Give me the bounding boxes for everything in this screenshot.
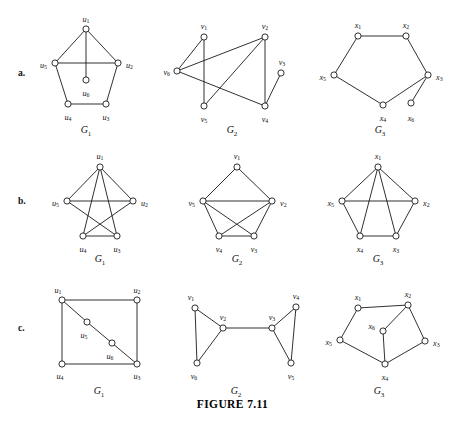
- vertex-label-x2: x2: [422, 199, 430, 208]
- edge-v1-v6: [195, 308, 197, 363]
- graph-name-a-G2: G2: [227, 124, 238, 138]
- edge-u2-u3: [106, 63, 118, 104]
- vertex-x1: [355, 305, 361, 311]
- graph-name-b-G2: G2: [232, 253, 243, 267]
- vertex-label-u1: u1: [55, 286, 62, 295]
- vertex-label-x2: x2: [402, 21, 410, 30]
- edge-v2-v3: [254, 201, 272, 236]
- vertex-v1: [201, 34, 207, 40]
- vertex-u6: [83, 77, 89, 83]
- vertex-label-u6: u6: [83, 89, 90, 98]
- graph-name-a-G3: G3: [375, 124, 386, 138]
- vertex-x4: [380, 102, 386, 108]
- edge-v2-v5: [204, 37, 265, 106]
- vertex-label-u4: u4: [80, 245, 87, 254]
- vertex-x4: [382, 361, 388, 367]
- vertex-label-x1: x1: [354, 21, 362, 30]
- vertex-label-u2: u2: [141, 199, 148, 208]
- graph-name-c-G1: G1: [94, 385, 105, 399]
- vertex-label-v4: v4: [293, 292, 300, 301]
- edge-u6-u3: [112, 343, 137, 364]
- vertex-label-v1: v1: [201, 22, 208, 31]
- graph-b-G1: u1u2u3u4u5G1: [52, 152, 148, 267]
- vertex-v3: [278, 70, 284, 76]
- vertex-x1: [355, 33, 361, 39]
- graph-a-G3: x1x2x3x4x5x6G3: [318, 21, 442, 138]
- row-label-a: a.: [18, 68, 25, 78]
- edge-x4-x5: [334, 75, 383, 105]
- vertex-x3: [425, 72, 431, 78]
- vertex-v5: [288, 360, 294, 366]
- edge-x4-x5: [340, 340, 385, 364]
- vertex-x1: [375, 164, 381, 170]
- vertex-label-u2: u2: [134, 286, 141, 295]
- vertex-label-v6: v6: [163, 68, 170, 77]
- vertex-u2: [134, 297, 140, 303]
- edge-x1-x4: [360, 167, 378, 236]
- vertex-label-v3: v3: [279, 58, 286, 67]
- edges-b-G3: [342, 167, 415, 236]
- edges-c-G2: [195, 307, 296, 363]
- figure-caption: FIGURE 7.11: [0, 398, 465, 410]
- vertex-x5: [331, 72, 337, 78]
- vertex-x2: [412, 198, 418, 204]
- vertex-u2: [115, 60, 121, 66]
- edges-a-G3: [334, 36, 428, 105]
- graph-name-a-G1: G1: [81, 124, 92, 138]
- vertex-label-u4: u4: [65, 113, 72, 122]
- edge-u1-u5: [67, 167, 100, 201]
- vertex-label-v5: v5: [188, 199, 195, 208]
- vertex-v4: [293, 304, 299, 310]
- vertex-u3: [114, 233, 120, 239]
- edge-v2-v4: [219, 201, 272, 236]
- vertex-u4: [80, 233, 86, 239]
- graph-name-c-G2: G2: [231, 385, 242, 399]
- vertex-u6: [109, 340, 115, 346]
- vertex-x6: [408, 100, 414, 106]
- vertex-u1: [59, 297, 65, 303]
- vertex-label-u3: u3: [103, 113, 110, 122]
- vertex-label-v6: v6: [191, 372, 198, 381]
- vertex-label-v4: v4: [216, 245, 223, 254]
- vertex-label-v2: v2: [262, 22, 269, 31]
- vertex-v4: [216, 233, 222, 239]
- vertex-v2: [262, 34, 268, 40]
- vertex-x5: [339, 198, 345, 204]
- vertex-x2: [403, 33, 409, 39]
- vertex-label-v2: v2: [280, 199, 287, 208]
- edge-x3-x6: [411, 75, 428, 103]
- vertex-u1: [97, 164, 103, 170]
- graph-b-G3: x1x2x3x4x5G3: [326, 152, 429, 267]
- graph-diagram-canvas: u1u2u3u4u5u6G1v1v2v3v4v5v6G2x1x2x3x4x5x6…: [0, 0, 465, 421]
- vertex-label-u3: u3: [114, 245, 121, 254]
- edge-x5-x1: [340, 308, 358, 340]
- vertex-v6: [194, 360, 200, 366]
- edge-v3-v5: [272, 328, 291, 363]
- vertex-label-x5: x5: [324, 338, 332, 347]
- vertex-label-v5: v5: [288, 372, 295, 381]
- vertex-v2: [220, 325, 226, 331]
- vertex-label-x1: x1: [374, 152, 382, 161]
- graph-a-G1: u1u2u3u4u5u6G1: [40, 15, 133, 138]
- vertex-label-v3: v3: [269, 313, 276, 322]
- vertex-label-v3: v3: [251, 245, 258, 254]
- edge-x3-x4: [385, 341, 425, 364]
- vertex-x5: [337, 337, 343, 343]
- graph-c-G2: v1v2v3v4v5v6G2: [188, 292, 300, 399]
- vertex-label-x6: x6: [407, 114, 415, 123]
- edge-x5-x4: [342, 201, 360, 236]
- edge-x1-x5: [342, 167, 378, 201]
- edge-x6-x4: [383, 331, 385, 364]
- vertex-label-u5: u5: [81, 331, 88, 340]
- vertex-label-x1: x1: [354, 293, 362, 302]
- edge-x6-x2: [383, 305, 408, 331]
- vertex-v5: [200, 198, 206, 204]
- vertex-u4: [59, 361, 65, 367]
- edge-u1-u5: [62, 300, 87, 322]
- graph-name-c-G3: G3: [374, 385, 385, 399]
- edge-x2-x3: [396, 201, 415, 236]
- vertex-label-u5: u5: [40, 61, 47, 70]
- vertex-label-u2: u2: [126, 61, 133, 70]
- vertex-u3: [134, 361, 140, 367]
- vertex-label-v2: v2: [220, 313, 227, 322]
